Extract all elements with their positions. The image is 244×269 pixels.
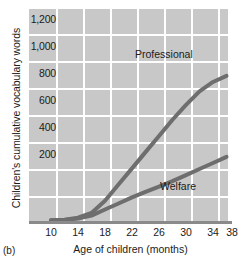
horizontal-gridline: [29, 115, 228, 117]
x-tick-label: 10: [38, 226, 64, 238]
y-tick-label: 1,000: [0, 40, 56, 52]
vertical-gridline: [137, 9, 139, 221]
panel-caption: (b): [3, 245, 15, 256]
x-tick-label: 22: [119, 226, 145, 238]
y-tick-label: 200: [0, 148, 56, 160]
series-label-welfare: Welfare: [160, 180, 196, 192]
vertical-gridline: [110, 9, 112, 221]
y-tick-label: 400: [0, 121, 56, 133]
y-tick-label: 1,200: [0, 13, 56, 25]
x-tick-label: 38: [219, 226, 244, 238]
y-tick-label: 800: [0, 67, 56, 79]
x-axis-title: Age of children (months): [29, 243, 232, 255]
horizontal-gridline: [29, 169, 228, 171]
x-tick-label: 30: [173, 226, 199, 238]
horizontal-gridline: [29, 142, 228, 144]
series-label-professional: Professional: [135, 48, 193, 60]
vertical-gridline: [218, 9, 220, 221]
x-tick-label: 14: [65, 226, 91, 238]
horizontal-gridline: [29, 61, 228, 63]
x-tick-label: 26: [146, 226, 172, 238]
horizontal-gridline: [29, 196, 228, 198]
x-tick-label: 18: [92, 226, 118, 238]
vertical-gridline: [56, 9, 58, 221]
horizontal-gridline: [29, 88, 228, 90]
vertical-gridline: [83, 9, 85, 221]
x-axis-line: [29, 221, 232, 224]
y-tick-label: 600: [0, 94, 56, 106]
vocabulary-growth-chart: Children's cumulative vocabulary words 1…: [0, 0, 244, 269]
horizontal-gridline: [29, 34, 228, 36]
plot-area: [29, 9, 228, 221]
